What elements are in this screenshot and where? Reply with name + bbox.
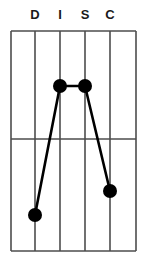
data-point-i xyxy=(53,79,67,93)
data-point-d xyxy=(28,208,42,222)
profile-markers xyxy=(28,79,117,222)
profile-line xyxy=(35,86,110,215)
disc-profile-chart: D I S C xyxy=(0,0,143,265)
data-point-s xyxy=(78,79,92,93)
data-point-c xyxy=(103,184,117,198)
plot-area xyxy=(0,0,143,265)
